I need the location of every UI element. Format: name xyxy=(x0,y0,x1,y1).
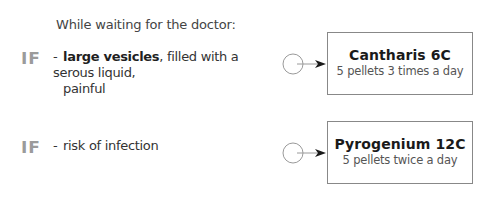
remedy-dose: 5 pellets twice a day xyxy=(328,153,472,167)
circle-arrow-icon xyxy=(282,141,328,165)
remedy-dose: 5 pellets 3 times a day xyxy=(328,64,472,78)
if-badge: IF xyxy=(21,140,41,153)
condition-bold: large vesicles xyxy=(63,49,159,64)
remedy-name: Cantharis 6C xyxy=(328,47,472,63)
condition-continuation: painful xyxy=(53,81,283,97)
circle-arrow-icon xyxy=(282,52,328,76)
if-badge: IF xyxy=(21,51,41,64)
condition-rest: risk of infection xyxy=(63,138,158,153)
remedy-box: Pyrogenium 12C 5 pellets twice a day xyxy=(327,121,473,184)
remedy-name: Pyrogenium 12C xyxy=(328,136,472,152)
condition-text: -risk of infection xyxy=(53,138,283,154)
intro-text: While waiting for the doctor: xyxy=(56,17,236,32)
remedy-box: Cantharis 6C 5 pellets 3 times a day xyxy=(327,32,473,95)
condition-dash: - xyxy=(53,138,63,154)
condition-text: -large vesicles, filled with a serous li… xyxy=(53,49,283,97)
condition-dash: - xyxy=(53,49,63,65)
